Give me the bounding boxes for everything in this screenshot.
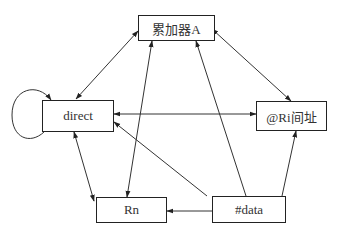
edge-data-acc bbox=[196, 41, 246, 196]
edge-data-ri bbox=[282, 131, 296, 196]
node-label: Rn bbox=[124, 202, 139, 218]
node-label: #data bbox=[235, 202, 263, 218]
node-label: 累加器A bbox=[152, 19, 200, 38]
node-ri-indirect: @Ri间址 bbox=[256, 101, 327, 131]
edge-direct-rn bbox=[74, 132, 94, 201]
node-immediate-data: #data bbox=[212, 196, 286, 223]
node-rn: Rn bbox=[96, 197, 167, 223]
edge-acc-rn bbox=[127, 41, 152, 197]
edge-data-direct bbox=[114, 122, 207, 196]
node-label: @Ri间址 bbox=[266, 107, 316, 126]
edge-acc-ri bbox=[212, 29, 291, 101]
edge-direct-acc bbox=[76, 31, 138, 99]
node-direct: direct bbox=[42, 100, 114, 132]
node-label: direct bbox=[63, 108, 93, 124]
node-accumulator-a: 累加器A bbox=[138, 15, 215, 41]
